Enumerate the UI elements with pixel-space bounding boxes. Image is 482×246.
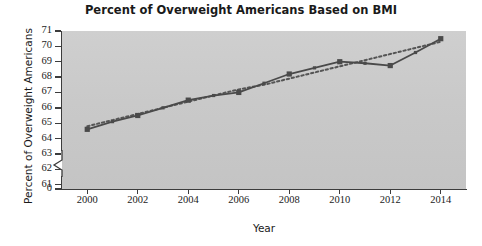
data-point-marker	[337, 59, 342, 64]
x-tick-mark	[339, 189, 340, 194]
y-tick-label: 61	[26, 178, 52, 189]
x-axis-line	[61, 189, 467, 190]
x-tick-mark	[87, 189, 88, 194]
y-axis-line-lower	[61, 176, 62, 190]
plot-area	[62, 31, 466, 190]
y-tick-label: 65	[26, 116, 52, 127]
y-tick-label: 69	[26, 55, 52, 66]
data-point-marker	[438, 36, 443, 41]
data-point-marker	[363, 62, 366, 65]
y-tick-label: 68	[26, 70, 52, 81]
y-tick-label: 66	[26, 101, 52, 112]
x-tick-label: 2008	[269, 194, 309, 205]
x-tick-label: 2014	[421, 194, 461, 205]
x-tick-mark	[238, 189, 239, 194]
y-tick-mark	[55, 138, 61, 139]
plot-svg	[62, 31, 466, 190]
x-tick-mark	[137, 189, 138, 194]
x-tick-label: 2010	[320, 194, 360, 205]
y-axis-line	[61, 31, 62, 151]
data-point-marker	[212, 94, 215, 97]
y-tick-mark	[55, 169, 61, 170]
y-tick-mark	[55, 123, 61, 124]
data-point-marker	[388, 63, 393, 68]
x-tick-mark	[390, 189, 391, 194]
y-tick-label: 62	[26, 162, 52, 173]
y-tick-mark	[55, 107, 61, 108]
data-point-marker	[313, 66, 316, 69]
y-tick-mark	[55, 46, 61, 47]
x-axis-title: Year	[62, 222, 466, 234]
y-tick-mark	[55, 30, 61, 31]
data-point-marker	[287, 71, 292, 76]
data-point-marker	[135, 113, 140, 118]
x-tick-label: 2012	[370, 194, 410, 205]
data-point-marker	[111, 120, 114, 123]
y-tick-mark	[55, 184, 61, 185]
y-tick-mark	[55, 61, 61, 62]
data-point-marker	[414, 51, 417, 54]
x-tick-label: 2006	[219, 194, 259, 205]
data-point-markers	[85, 36, 444, 132]
y-tick-label: 63	[26, 147, 52, 158]
y-tick-mark	[55, 92, 61, 93]
x-tick-label: 2000	[67, 194, 107, 205]
data-point-marker	[85, 127, 90, 132]
chart-figure: Percent of Overweight Americans Based on…	[0, 0, 482, 246]
x-tick-mark	[188, 189, 189, 194]
x-tick-label: 2004	[168, 194, 208, 205]
x-tick-mark	[440, 189, 441, 194]
x-tick-label: 2002	[118, 194, 158, 205]
y-tick-mark	[55, 188, 61, 189]
data-point-marker	[236, 90, 241, 95]
chart-title: Percent of Overweight Americans Based on…	[0, 3, 482, 17]
data-point-marker	[186, 98, 191, 103]
y-tick-label: 64	[26, 132, 52, 143]
y-tick-label: 67	[26, 85, 52, 96]
data-point-marker	[262, 82, 265, 85]
data-point-marker	[161, 106, 164, 109]
y-tick-mark	[55, 153, 61, 154]
x-tick-mark	[289, 189, 290, 194]
y-tick-label: 71	[26, 24, 52, 35]
y-tick-label: 70	[26, 39, 52, 50]
y-tick-mark	[55, 76, 61, 77]
